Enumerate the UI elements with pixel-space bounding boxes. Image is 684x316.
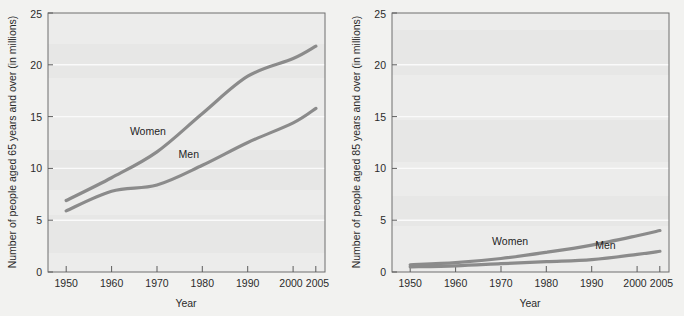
scan-noise-band-right-3 [392, 196, 669, 226]
y-axis-title-right: Number of people aged 85 years and over … [350, 16, 362, 269]
chart-svg-left: 0 5 10 15 20 25 1950 1960 1970 1980 1990… [0, 0, 342, 316]
y-tick-label-right-10: 10 [374, 162, 386, 174]
y-tick-label-left-25: 25 [30, 8, 42, 20]
series-label-women-right: Women [492, 235, 528, 247]
y-tick-label-right-25: 25 [374, 8, 386, 20]
y-tick-label-right-0: 0 [380, 266, 386, 278]
series-label-women-left: Women [130, 125, 166, 137]
x-tick-label-right-2000: 2000 [623, 277, 647, 289]
x-tick-label-left-2000: 2000 [279, 277, 303, 289]
chart-panel-65-and-over: 0 5 10 15 20 25 1950 1960 1970 1980 1990… [0, 0, 342, 316]
y-tick-label-left-20: 20 [30, 59, 42, 71]
y-axis-title-left: Number of people aged 65 years and over … [6, 16, 18, 269]
x-tick-label-left-1980: 1980 [191, 277, 215, 289]
chart-svg-right: 0 5 10 15 20 25 1950 1960 1970 1980 1990… [342, 0, 684, 316]
y-tick-label-right-15: 15 [374, 111, 386, 123]
chart-panel-85-and-over: 0 5 10 15 20 25 1950 1960 1970 1980 1990… [342, 0, 684, 316]
x-tick-label-right-1950: 1950 [399, 277, 423, 289]
y-tick-label-left-10: 10 [30, 162, 42, 174]
x-tick-label-right-1980: 1980 [535, 277, 559, 289]
x-tick-label-right-1990: 1990 [580, 277, 604, 289]
x-tick-label-left-1950: 1950 [55, 277, 79, 289]
x-tick-label-right-2005: 2005 [650, 277, 674, 289]
series-label-men-right: Men [595, 239, 616, 251]
x-axis-title-left: Year [175, 297, 197, 309]
x-tick-label-right-1970: 1970 [489, 277, 513, 289]
scan-noise-band-right-2 [392, 120, 669, 162]
x-tick-label-left-1990: 1990 [236, 277, 260, 289]
x-tick-label-left-1960: 1960 [100, 277, 124, 289]
x-tick-label-left-1970: 1970 [145, 277, 169, 289]
y-tick-label-left-0: 0 [36, 266, 42, 278]
y-tick-label-right-20: 20 [374, 59, 386, 71]
x-axis-title-right: Year [519, 297, 541, 309]
x-tick-label-left-2005: 2005 [306, 277, 330, 289]
y-tick-label-left-15: 15 [30, 111, 42, 123]
scan-noise-band-right-1 [392, 30, 669, 75]
y-tick-label-left-5: 5 [36, 214, 42, 226]
series-label-men-left: Men [179, 148, 200, 160]
y-tick-label-right-5: 5 [380, 214, 386, 226]
dual-line-chart-figure: 0 5 10 15 20 25 1950 1960 1970 1980 1990… [0, 0, 684, 316]
x-tick-label-right-1960: 1960 [444, 277, 468, 289]
